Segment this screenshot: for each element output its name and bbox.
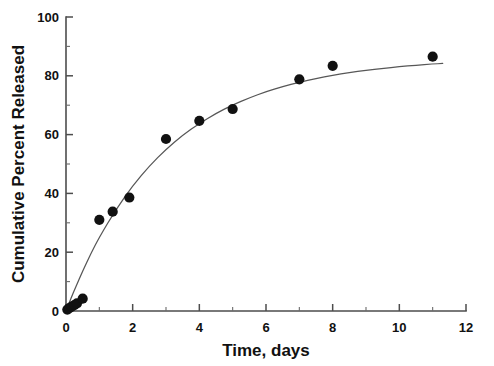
x-tick-label: 4 [196,320,204,335]
x-tick-label: 10 [392,320,406,335]
y-tick-label: 80 [45,68,59,83]
data-point [328,61,338,71]
y-tick-label: 60 [45,127,59,142]
x-tick-label: 8 [329,320,336,335]
data-point [94,215,104,225]
x-tick-label: 6 [262,320,269,335]
data-point [108,207,118,217]
x-tick-label: 2 [129,320,136,335]
data-point [78,294,88,304]
scatter-plot-canvas: 020406080100 024681012 Time, days Cumula… [0,0,494,366]
x-tick-label: 0 [62,320,69,335]
data-point [124,192,134,202]
y-axis-title: Cumulative Percent Released [9,45,28,283]
data-point [161,134,171,144]
data-point [194,116,204,126]
data-point [294,74,304,84]
y-tick-label: 20 [45,245,59,260]
y-tick-label: 100 [37,10,59,25]
x-axis-title: Time, days [222,341,310,360]
chart-figure: 020406080100 024681012 Time, days Cumula… [0,0,494,366]
x-tick-label: 12 [459,320,473,335]
data-point [428,52,438,62]
y-tick-label: 0 [52,304,59,319]
data-point [228,104,238,114]
y-tick-label: 40 [45,186,59,201]
